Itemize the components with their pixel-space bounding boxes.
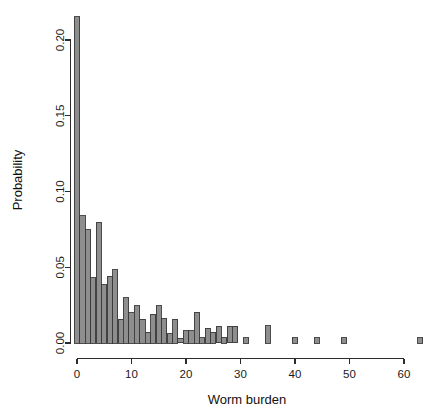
plot-area: 0.000.050.100.150.20 0102030405060 Proba… <box>0 0 447 416</box>
bar <box>183 331 188 343</box>
y-axis-tick-label: 0.15 <box>54 105 66 127</box>
bar <box>216 326 221 343</box>
bar <box>232 326 237 343</box>
x-axis-tick-label: 10 <box>125 368 138 380</box>
bar <box>118 319 123 343</box>
bar <box>134 306 139 343</box>
bar <box>123 298 128 343</box>
bar <box>91 278 96 343</box>
bar <box>167 334 172 343</box>
bar <box>85 230 90 343</box>
bar <box>151 314 156 343</box>
bar <box>113 270 118 343</box>
bar <box>140 319 145 343</box>
bar <box>211 332 216 343</box>
bar <box>227 326 232 343</box>
bar <box>145 332 150 343</box>
bar <box>178 338 183 343</box>
bar <box>222 338 227 343</box>
bar <box>129 313 134 343</box>
bar <box>173 319 178 343</box>
y-axis-tick-label: 0.10 <box>54 180 66 202</box>
x-axis-tick-label: 60 <box>398 368 411 380</box>
x-axis-tick-label: 30 <box>234 368 247 380</box>
y-axis-title: Probability <box>10 149 25 210</box>
chart-background <box>0 0 447 416</box>
bar <box>189 331 194 343</box>
bar <box>243 338 248 343</box>
bar <box>74 17 79 343</box>
bar <box>194 312 199 343</box>
bar <box>200 338 205 343</box>
bar <box>102 285 107 343</box>
y-axis-tick-label: 0.00 <box>54 332 66 354</box>
bar <box>292 338 297 343</box>
bar <box>418 338 423 343</box>
bar <box>96 222 101 343</box>
x-axis-tick-label: 0 <box>74 368 80 380</box>
x-axis-tick-label: 40 <box>289 368 302 380</box>
bar <box>107 276 112 343</box>
histogram-chart: 0.000.050.100.150.20 0102030405060 Proba… <box>0 0 447 416</box>
x-axis-tick-label: 50 <box>343 368 356 380</box>
bar <box>205 328 210 343</box>
x-axis-title: Worm burden <box>208 392 287 407</box>
x-axis-tick-label: 20 <box>180 368 193 380</box>
bar <box>341 338 346 343</box>
y-axis-tick-label: 0.05 <box>54 256 66 278</box>
bar <box>156 306 161 343</box>
bar <box>162 318 167 343</box>
bar <box>265 326 270 343</box>
bar <box>314 338 319 343</box>
y-axis-tick-label: 0.20 <box>54 29 66 51</box>
bar <box>80 216 85 343</box>
